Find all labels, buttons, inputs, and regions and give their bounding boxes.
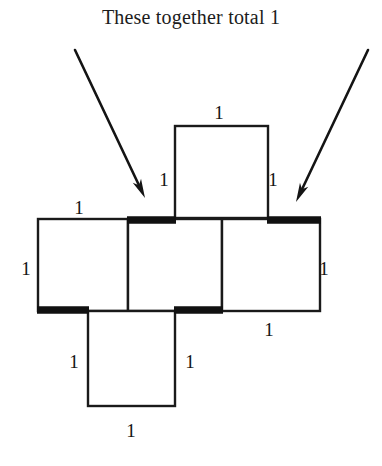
label-middle-right-square-right: 1 — [319, 259, 329, 278]
middle-right-square — [222, 219, 320, 311]
middle-center-square — [128, 219, 222, 311]
label-bottom-square-bottom: 1 — [126, 421, 136, 440]
label-middle-right-square-bottom: 1 — [264, 320, 274, 339]
middle-left-square — [38, 219, 128, 311]
label-bottom-square-left: 1 — [69, 352, 79, 371]
label-top-square-left: 1 — [159, 170, 169, 189]
net-diagram — [0, 0, 382, 466]
top-square — [175, 126, 268, 218]
right-arrow-head — [296, 183, 308, 202]
bottom-square — [88, 311, 175, 406]
label-top-square-right: 1 — [268, 170, 278, 189]
left-arrow-shaft — [75, 50, 139, 186]
left-arrow-head — [133, 179, 145, 198]
right-arrow-shaft — [302, 50, 368, 190]
figure-canvas: These together total 1 1111111111 — [0, 0, 382, 466]
label-middle-left-square-top: 1 — [74, 198, 84, 217]
label-bottom-square-right: 1 — [185, 352, 195, 371]
label-middle-left-square-left: 1 — [21, 259, 31, 278]
label-top-square-top: 1 — [214, 103, 224, 122]
